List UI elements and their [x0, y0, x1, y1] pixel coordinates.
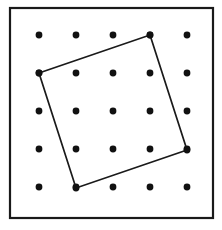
lattice-dot: [110, 32, 117, 39]
lattice-dot: [147, 108, 154, 115]
lattice-dot: [110, 146, 117, 153]
square-vertex-dot-left: [36, 70, 43, 77]
geoboard-figure: [0, 0, 222, 230]
lattice-dot: [147, 184, 154, 191]
square-vertex-dot-right: [184, 147, 191, 154]
lattice-dot: [36, 108, 43, 115]
lattice-dot: [36, 32, 43, 39]
lattice-dot: [73, 108, 80, 115]
lattice-dot: [73, 70, 80, 77]
square-vertex-dot-top: [147, 32, 154, 39]
square-vertex-dot-bottom: [73, 185, 80, 192]
lattice-dot: [147, 70, 154, 77]
lattice-dot: [184, 70, 191, 77]
lattice-dot: [110, 184, 117, 191]
geoboard-canvas: [0, 0, 222, 230]
lattice-dot: [184, 184, 191, 191]
lattice-dot: [110, 108, 117, 115]
lattice-dot: [36, 146, 43, 153]
lattice-dot: [36, 184, 43, 191]
lattice-dot: [73, 146, 80, 153]
lattice-dot: [184, 32, 191, 39]
lattice-dot: [147, 146, 154, 153]
lattice-dot: [73, 32, 80, 39]
lattice-dot: [110, 70, 117, 77]
lattice-dot: [184, 108, 191, 115]
